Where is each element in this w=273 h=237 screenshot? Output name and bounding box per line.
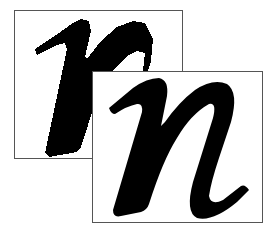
antialiased-n-glyph	[93, 72, 263, 223]
antialiased-glyph-panel: Anti-aliased glyph n	[92, 71, 263, 223]
